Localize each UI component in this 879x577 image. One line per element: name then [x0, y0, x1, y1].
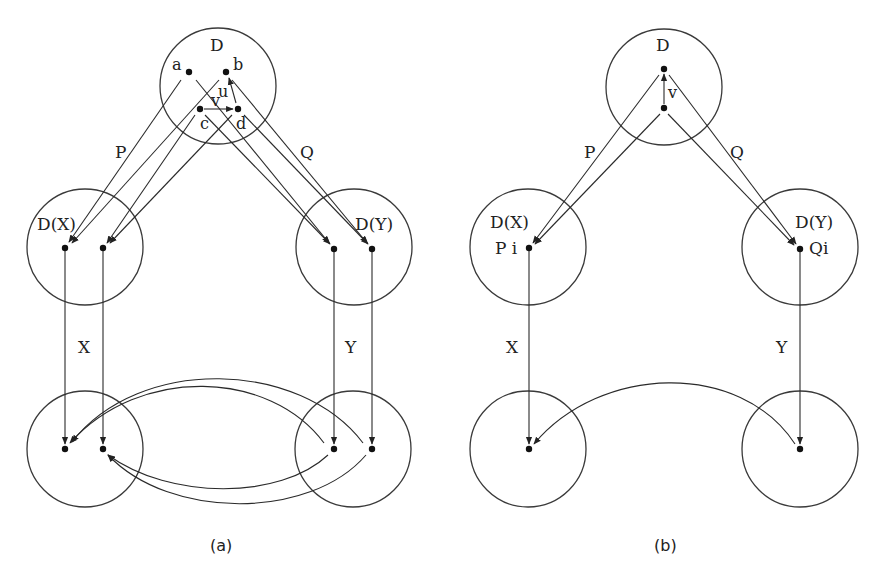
- point-dy-1: [331, 246, 337, 252]
- label-d: D: [210, 35, 224, 55]
- label-b: b: [233, 55, 243, 74]
- point-dx-1: [62, 245, 68, 251]
- label-a: a: [172, 55, 182, 74]
- label-dy-b: D(Y): [795, 212, 833, 232]
- point-br-2: [369, 446, 375, 452]
- point-d: [235, 106, 241, 112]
- edge-p-c: [107, 115, 195, 243]
- label-x: X: [78, 337, 91, 357]
- label-q: Q: [300, 142, 314, 162]
- label-v: v: [210, 91, 220, 110]
- arc-bottom-inner: [108, 455, 328, 489]
- caption-a: (a): [210, 536, 232, 555]
- point-qi: [797, 246, 803, 252]
- diagram-canvas: D a b c d u v D(X) D(Y) P Q X Y (a): [0, 0, 879, 577]
- arc-top-inner: [70, 386, 324, 443]
- edge-p-d: [110, 115, 232, 243]
- point-a: [186, 69, 192, 75]
- label-dy: D(Y): [355, 214, 393, 234]
- point-dy-2: [369, 246, 375, 252]
- label-x-b: X: [506, 337, 519, 357]
- panel-a: D a b c d u v D(X) D(Y) P Q X Y (a): [27, 28, 412, 555]
- label-p-b: P: [584, 142, 595, 162]
- edge-p-top-b: [533, 75, 659, 243]
- arc-bottom-outer: [108, 455, 366, 504]
- edge-q-c: [205, 115, 330, 244]
- label-d-point: d: [236, 114, 246, 133]
- point-b: [223, 69, 229, 75]
- edge-q-d: [244, 115, 368, 244]
- label-p: P: [115, 142, 126, 162]
- point-br-1: [331, 446, 337, 452]
- label-dx-b: D(X): [490, 212, 529, 232]
- label-d-b: D: [656, 35, 670, 55]
- label-y: Y: [344, 337, 357, 357]
- circle-y-image: [295, 391, 411, 507]
- label-pi: P i: [495, 238, 518, 258]
- point-dx-2: [100, 245, 106, 251]
- label-c: c: [200, 114, 209, 133]
- label-dx: D(X): [37, 214, 76, 234]
- point-bottom-b: [661, 105, 667, 111]
- point-pi: [526, 245, 532, 251]
- point-bl-1: [62, 446, 68, 452]
- edge-p-b: [72, 80, 219, 243]
- arc-top-outer: [72, 379, 363, 443]
- arrow-u: [229, 78, 236, 103]
- point-br-b: [797, 446, 803, 452]
- point-c: [197, 106, 203, 112]
- point-bl-2: [100, 446, 106, 452]
- circle-dy: [296, 189, 412, 305]
- edge-p-bottom-b: [535, 114, 660, 244]
- point-top-b: [661, 66, 667, 72]
- circle-x-image: [27, 391, 143, 507]
- panel-b: D v D(X) P i D(Y) Qi P Q X Y (b): [470, 29, 858, 555]
- point-bl-b: [526, 446, 532, 452]
- circle-dx: [27, 189, 143, 305]
- label-q-b: Q: [730, 142, 744, 162]
- caption-b: (b): [654, 536, 677, 555]
- label-v-b: v: [667, 83, 677, 102]
- label-qi: Qi: [809, 238, 829, 258]
- label-y-b: Y: [775, 337, 788, 357]
- edge-q-bottom-b: [668, 114, 794, 245]
